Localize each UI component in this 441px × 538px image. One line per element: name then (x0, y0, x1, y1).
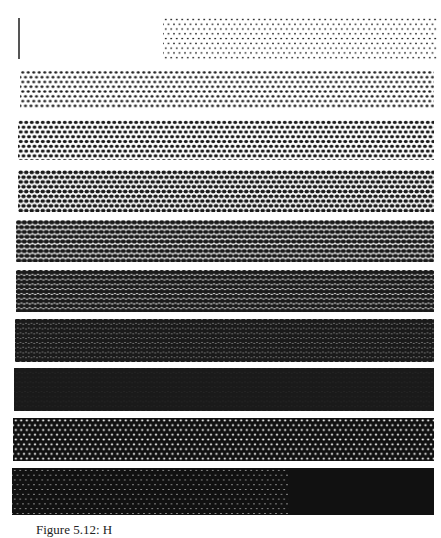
halftone-strip-6 (16, 270, 434, 312)
halftone-strip-2 (20, 70, 434, 108)
halftone-strip-7 (15, 319, 434, 362)
figure-caption: Figure 5.12: H (36, 522, 112, 538)
halftone-strip-9 (13, 418, 434, 461)
halftone-strip-10 (12, 468, 434, 515)
halftone-strip-5 (16, 220, 434, 262)
halftone-strip-1 (163, 17, 437, 60)
halftone-strip-3 (18, 120, 434, 160)
vertical-bar (18, 18, 20, 59)
halftone-strip-8 (14, 368, 434, 411)
halftone-strip-4 (18, 170, 434, 212)
